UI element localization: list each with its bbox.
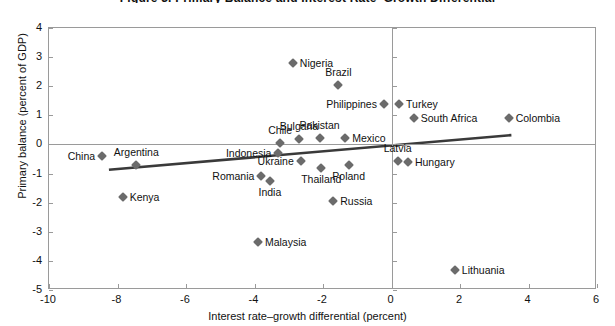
data-point-label: Russia <box>340 196 372 207</box>
data-point-label: Malaysia <box>265 236 306 247</box>
x-axis-tick <box>597 284 598 288</box>
y-axis-inner-tick <box>393 86 397 87</box>
x-axis-tick-label: -4 <box>234 293 274 305</box>
y-axis-tick <box>49 86 53 87</box>
y-axis-inner-tick <box>393 203 397 204</box>
data-point-label: India <box>259 187 282 198</box>
y-axis-tick <box>49 232 53 233</box>
y-axis-tick-label: -4 <box>12 254 42 266</box>
figure-title: Figure 3. Primary Balance and Interest R… <box>0 0 615 3</box>
data-point-label: Colombia <box>516 113 560 124</box>
x-axis-title: Interest rate–growth differential (perce… <box>0 310 615 322</box>
data-point-label: Pakistan <box>299 120 339 131</box>
y-axis-inner-tick <box>393 57 397 58</box>
x-axis-tick <box>323 284 324 288</box>
zero-horizontal-line <box>49 144 595 145</box>
y-axis-tick <box>49 28 53 29</box>
y-axis-inner-tick <box>393 28 397 29</box>
data-point-label: Ukraine <box>258 156 294 167</box>
data-point-label: Romania <box>212 171 254 182</box>
y-axis-inner-tick <box>393 290 397 291</box>
x-axis-tick <box>118 284 119 288</box>
y-axis-tick <box>49 57 53 58</box>
x-axis-tick-label: 6 <box>576 293 615 305</box>
data-point-label: Brazil <box>325 67 351 78</box>
y-axis-tick-label: -3 <box>12 225 42 237</box>
y-axis-inner-tick <box>393 174 397 175</box>
data-point-label: Hungary <box>415 157 455 168</box>
y-axis-tick-label: 0 <box>12 137 42 149</box>
y-axis-tick-label: -2 <box>12 196 42 208</box>
data-point-label: Mexico <box>352 133 385 144</box>
y-axis-tick <box>49 144 53 145</box>
y-axis-tick-label: -1 <box>12 167 42 179</box>
x-axis-tick-label: -6 <box>165 293 205 305</box>
y-axis-tick <box>49 115 53 116</box>
y-axis-tick <box>49 174 53 175</box>
y-axis-inner-tick <box>393 261 397 262</box>
data-point-label: Philippines <box>326 99 377 110</box>
x-axis-tick <box>392 284 393 288</box>
y-axis-tick <box>49 290 53 291</box>
y-axis-inner-tick <box>393 115 397 116</box>
y-axis-tick-label: 3 <box>12 50 42 62</box>
x-axis-tick-label: -8 <box>97 293 137 305</box>
x-axis-tick-label: -2 <box>302 293 342 305</box>
y-axis-tick <box>49 203 53 204</box>
x-axis-tick-label: -10 <box>28 293 68 305</box>
x-axis-tick <box>49 284 50 288</box>
zero-vertical-line <box>392 28 393 288</box>
y-axis-tick-label: 4 <box>12 21 42 33</box>
x-axis-tick <box>186 284 187 288</box>
data-point-label: Latvia <box>384 143 412 154</box>
data-point-label: Argentina <box>114 147 159 158</box>
data-point-label: South Africa <box>421 112 478 123</box>
x-axis-tick-label: 4 <box>508 293 548 305</box>
data-point-label: Kenya <box>130 192 160 203</box>
y-axis-tick-label: 1 <box>12 108 42 120</box>
plot-area: ChinaArgentinaKenyaNigeriaBrazilPhilippi… <box>48 27 596 289</box>
y-axis-inner-tick <box>393 232 397 233</box>
data-point-label: Lithuania <box>462 265 505 276</box>
y-axis-tick <box>49 261 53 262</box>
x-axis-tick-label: 2 <box>439 293 479 305</box>
data-point-label: Poland <box>332 171 365 182</box>
data-point-label: Turkey <box>406 98 438 109</box>
x-axis-tick-label: 0 <box>371 293 411 305</box>
x-axis-tick <box>529 284 530 288</box>
x-axis-tick <box>255 284 256 288</box>
x-axis-tick <box>460 284 461 288</box>
data-point-label: China <box>68 150 95 161</box>
scatter-chart-figure: Figure 3. Primary Balance and Interest R… <box>0 0 615 326</box>
y-axis-tick-label: 2 <box>12 79 42 91</box>
